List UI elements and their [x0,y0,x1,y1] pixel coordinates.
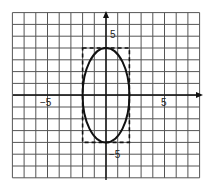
tick-label-x-pos5: 5 [161,97,167,108]
tick-label-y-pos5: 5 [110,29,116,40]
ellipse-diagram: −5 5 5 −5 [0,0,212,186]
tick-label-x-neg5: −5 [40,97,52,108]
tick-label-y-neg5: −5 [109,149,121,160]
y-axis-arrow-icon [103,11,109,18]
